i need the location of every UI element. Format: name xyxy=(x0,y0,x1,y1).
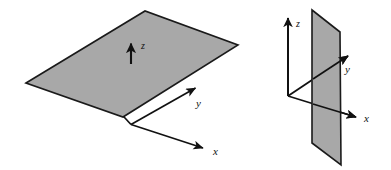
z-axis-label-left: z xyxy=(140,40,145,51)
figure-container: z y x z y x xyxy=(0,0,391,170)
vertical-plane-shape xyxy=(312,10,341,165)
diagram-canvas: z y x z y x xyxy=(0,0,391,170)
vertical-plane-diagram: z y x xyxy=(288,10,369,165)
x-axis-label-left: x xyxy=(212,145,218,157)
z-axis-label-right: z xyxy=(295,18,300,29)
x-axis-line-left xyxy=(131,125,203,149)
y-axis-label-left: y xyxy=(195,97,201,109)
y-axis-label-right: y xyxy=(344,63,350,75)
x-axis-label-right: x xyxy=(363,112,369,124)
horizontal-plane-diagram: z y x xyxy=(26,11,238,157)
horizontal-plane-drop-line xyxy=(124,117,131,125)
